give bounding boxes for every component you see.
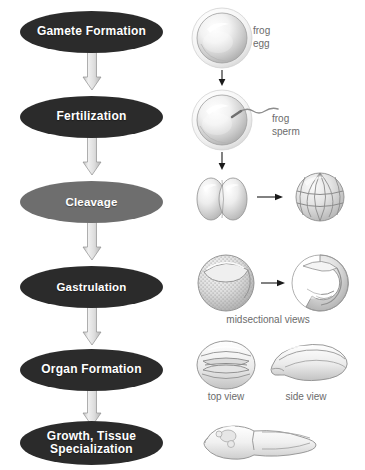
label-frog-egg: frog egg [253,25,270,50]
label-frog-sperm: frog sperm [272,113,300,138]
caption-layer: frog egg frog sperm midsectional views t… [0,0,365,470]
label-midsectional-views: midsectional views [208,314,328,327]
label-top-view: top view [192,391,260,404]
diagram-canvas: Gamete Formation Fertilization Cleavage … [0,0,365,470]
label-side-view: side view [272,391,340,404]
